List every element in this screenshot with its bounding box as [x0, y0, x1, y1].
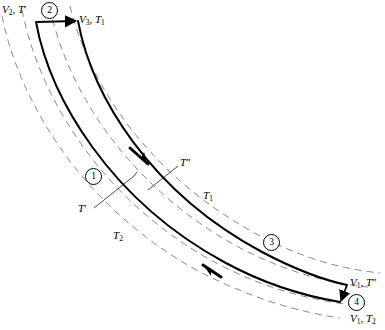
label-v1-t2: V1, T2 [350, 313, 376, 325]
isotherm-curve-t2-outer [2, 16, 340, 318]
label-v1-tdoubleprime: V1, T″ [350, 277, 377, 289]
thermodynamic-cycle-diagram: V2, T′ V3, T1 V1, T″ V1, T2 T′ T″ T1 T2 … [0, 0, 385, 330]
state-point-3: 3 [263, 234, 280, 251]
leader-line-t-prime-tick [134, 172, 137, 176]
cycle-drawing-canvas [0, 0, 385, 330]
state-point-4: 4 [348, 294, 365, 311]
label-v2-tprime: V2, T′ [2, 4, 27, 16]
isotherm-curve-group [2, 6, 380, 318]
label-t-double-prime: T″ [180, 157, 191, 168]
process-leg-top-isochoric [36, 21, 76, 22]
isotherm-curve-t1-inner [50, 8, 368, 287]
state-point-1: 1 [85, 168, 102, 185]
label-t1: T1 [203, 190, 213, 202]
process-curve-group [36, 21, 347, 302]
process-leg-right-isochoric [341, 285, 347, 301]
label-v3-t1: V3, T1 [79, 14, 105, 26]
process-curve-upper [78, 21, 347, 285]
leader-line-t-double-prime [148, 166, 178, 190]
label-t2: T2 [113, 230, 123, 242]
label-t-prime: T′ [78, 203, 87, 214]
state-point-2: 2 [41, 2, 58, 19]
